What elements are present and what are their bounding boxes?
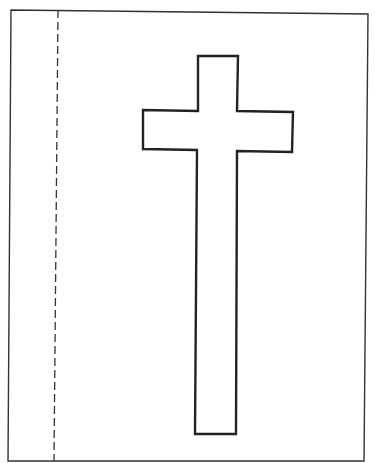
craft-template-canvas [0, 0, 375, 463]
page-border [8, 10, 368, 461]
dashed-fold-line [54, 10, 58, 461]
cross-outline-shape [143, 56, 293, 434]
